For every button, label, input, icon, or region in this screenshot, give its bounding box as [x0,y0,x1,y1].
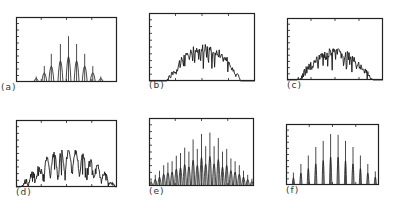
data-trace [287,49,383,80]
panel-label-c: (c) [287,80,302,90]
data-trace [16,150,117,187]
panel-label-b: (b) [149,80,165,90]
panel-e [149,118,254,186]
panel-b [149,13,255,81]
data-trace [149,133,253,186]
panel-label-a: (a) [1,82,17,92]
plot-e [149,118,254,186]
data-trace [34,36,104,82]
plot-b [149,13,255,81]
panel-label-d: (d) [16,187,32,197]
panel-f [286,124,379,185]
plot-f [286,124,379,185]
plot-d [16,120,117,187]
plot-frame [288,19,383,80]
panel-label-f: (f) [286,185,299,195]
panel-a [16,17,117,82]
data-trace [149,44,255,81]
panel-d [16,120,117,187]
panel-label-e: (e) [149,186,165,196]
panel-c [287,18,383,80]
data-trace [292,134,376,185]
plot-a [16,17,117,82]
plot-c [287,18,383,80]
